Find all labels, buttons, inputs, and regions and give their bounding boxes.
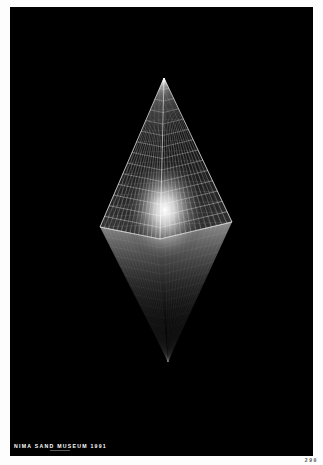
light-glow	[123, 155, 207, 265]
poster-image: NIMA SAND MUSEUM 1991	[10, 7, 313, 456]
caption-credit-line	[50, 450, 70, 451]
poster-caption: NIMA SAND MUSEUM 1991	[14, 443, 107, 449]
page-number: 299	[305, 457, 318, 463]
pyramid-artwork	[10, 7, 313, 456]
book-page: NIMA SAND MUSEUM 1991 299	[0, 0, 323, 465]
